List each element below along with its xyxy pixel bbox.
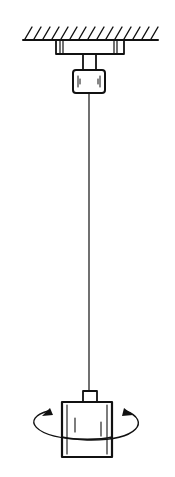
upper-clamp <box>73 70 105 93</box>
torsion-pendulum-diagram <box>0 0 175 477</box>
ceiling-hatching <box>25 27 158 39</box>
pendulum-bob <box>62 391 112 457</box>
mounting-bracket <box>56 40 124 70</box>
arrowhead-right-icon <box>122 408 133 416</box>
ceiling-support <box>23 27 158 40</box>
rotation-arrow-icon <box>34 408 138 440</box>
